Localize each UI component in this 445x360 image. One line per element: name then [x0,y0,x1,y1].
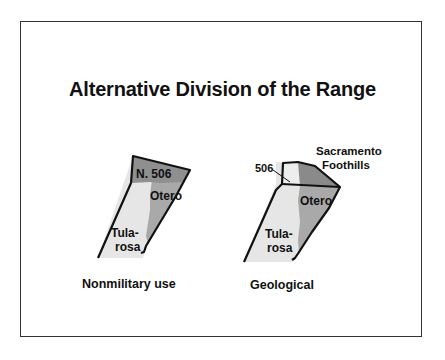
caption-geological: Geological [250,278,314,292]
region-label-otero: Otero [150,189,182,203]
caption-nonmilitary: Nonmilitary use [82,277,176,291]
region-label-n506: N. 506 [136,167,172,181]
region-label-tularosa-1: Tula- [111,226,139,240]
region-label-tularosa-1: Tula- [265,227,293,241]
region-label-foothills: Foothills [322,159,370,171]
map-nonmilitary: N. 506 Otero Tula- rosa [98,156,190,258]
region-label-506: 506 [255,162,273,174]
map-geological: 506 Sacramento Foothills Otero Tula- ros… [244,145,382,262]
region-label-tularosa-2: rosa [267,241,293,255]
region-label-otero: Otero [300,194,332,208]
maps-diagram: N. 506 Otero Tula- rosa 506 Sacramento F… [0,0,445,360]
region-label-tularosa-2: rosa [115,240,141,254]
region-label-sacramento: Sacramento [316,145,382,157]
